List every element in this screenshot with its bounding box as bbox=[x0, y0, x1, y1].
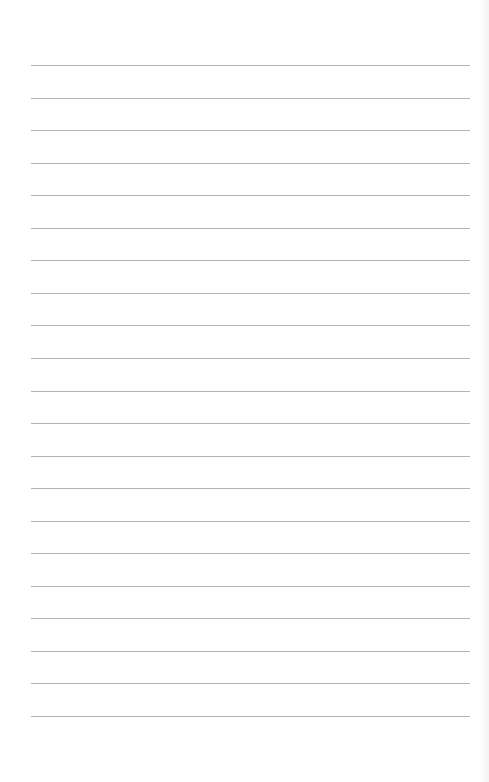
ruled-line bbox=[31, 683, 470, 684]
ruled-line bbox=[31, 521, 470, 522]
ruled-line bbox=[31, 358, 470, 359]
ruled-line bbox=[31, 716, 470, 717]
ruled-line bbox=[31, 163, 470, 164]
ruled-line bbox=[31, 195, 470, 196]
ruled-line bbox=[31, 98, 470, 99]
ruled-line bbox=[31, 423, 470, 424]
ruled-line bbox=[31, 586, 470, 587]
ruled-line bbox=[31, 391, 470, 392]
ruled-line bbox=[31, 65, 470, 66]
ruled-line bbox=[31, 228, 470, 229]
ruled-line bbox=[31, 553, 470, 554]
page-edge-shade bbox=[479, 0, 489, 782]
ruled-line bbox=[31, 130, 470, 131]
lined-paper-page bbox=[0, 0, 489, 782]
ruled-line bbox=[31, 456, 470, 457]
ruled-line bbox=[31, 293, 470, 294]
ruled-line bbox=[31, 260, 470, 261]
ruled-line bbox=[31, 488, 470, 489]
ruled-line bbox=[31, 651, 470, 652]
ruled-line bbox=[31, 325, 470, 326]
ruled-line bbox=[31, 618, 470, 619]
